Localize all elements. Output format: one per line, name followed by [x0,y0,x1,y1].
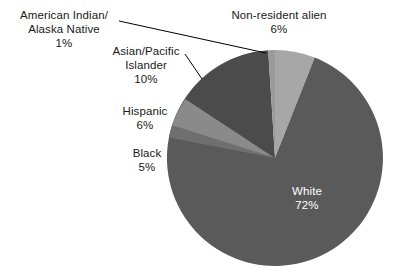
slice-label-value: 6% [204,22,354,36]
slice-label-black: Black 5% [110,146,184,174]
slice-label-line-1: Non-resident alien [204,8,354,22]
slice-label-value: 5% [110,160,184,174]
slice-label-value: 6% [106,118,184,132]
slice-label-line-1: White [274,184,340,198]
slice-label-line-1: Asian/Pacific [98,44,194,58]
slice-label-value: 10% [98,72,194,86]
pie-slices [167,50,383,266]
slice-label-line-1: Hispanic [106,104,184,118]
slice-label-line-2: Islander [98,58,194,72]
slice-label-line-2: Alaska Native [4,22,124,36]
slice-label-asian-pacific-islander: Asian/Pacific Islander 10% [98,44,194,86]
slice-label-white: White 72% [274,184,340,212]
pie-chart-figure: American Indian/ Alaska Native 1% Asian/… [0,0,394,277]
slice-label-value: 72% [274,198,340,212]
slice-label-hispanic: Hispanic 6% [106,104,184,132]
slice-label-line-1: Black [110,146,184,160]
slice-label-line-1: American Indian/ [4,8,124,22]
slice-label-non-resident-alien: Non-resident alien 6% [204,8,354,36]
